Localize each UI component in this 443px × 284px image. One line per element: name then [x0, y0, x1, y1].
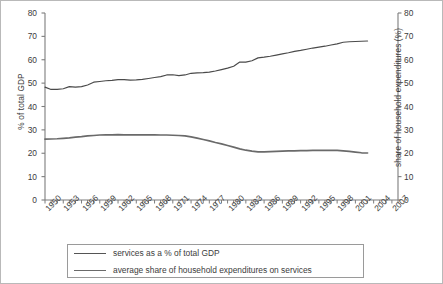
y-axis-left-tick-label: 50 [15, 78, 37, 88]
chart-figure: % of total GDP share of household expend… [0, 0, 443, 284]
y-axis-left-tick-label: 80 [15, 8, 37, 18]
y-axis-left-tick-label: 0 [15, 195, 37, 205]
y-axis-right-tick-label: 80 [404, 8, 426, 18]
legend-label-series-2: average share of household expenditures … [113, 266, 312, 274]
y-axis-left-tick-label: 40 [15, 102, 37, 112]
legend-item-household-expenditures: average share of household expenditures … [68, 262, 363, 279]
legend-item-services-gdp: services as a % of total GDP [68, 245, 363, 262]
legend-label-series-1: services as a % of total GDP [113, 249, 220, 257]
y-axis-right-tick-label: 50 [404, 78, 426, 88]
y-axis-left-tick-label: 60 [15, 55, 37, 65]
y-axis-left-tick-label: 30 [15, 125, 37, 135]
y-axis-right-tick-label: 60 [404, 55, 426, 65]
y-axis-right-tick-label: 20 [404, 148, 426, 158]
legend-line-swatch-series-1 [74, 253, 106, 254]
chart-legend: services as a % of total GDP average sha… [67, 244, 364, 278]
chart-plot-area [1, 1, 443, 284]
y-axis-left-tick-label: 70 [15, 31, 37, 41]
y-axis-left-tick-label: 10 [15, 172, 37, 182]
y-axis-left-tick-label: 20 [15, 148, 37, 158]
y-axis-right-tick-label: 70 [404, 31, 426, 41]
y-axis-right-tick-label: 40 [404, 102, 426, 112]
series-lines [45, 41, 368, 153]
y-axis-right-title: share of household expenditures (%) [394, 8, 403, 188]
y-axis-right-tick-label: 10 [404, 172, 426, 182]
y-axis-right-tick-label: 30 [404, 125, 426, 135]
legend-line-swatch-series-2 [74, 270, 106, 271]
